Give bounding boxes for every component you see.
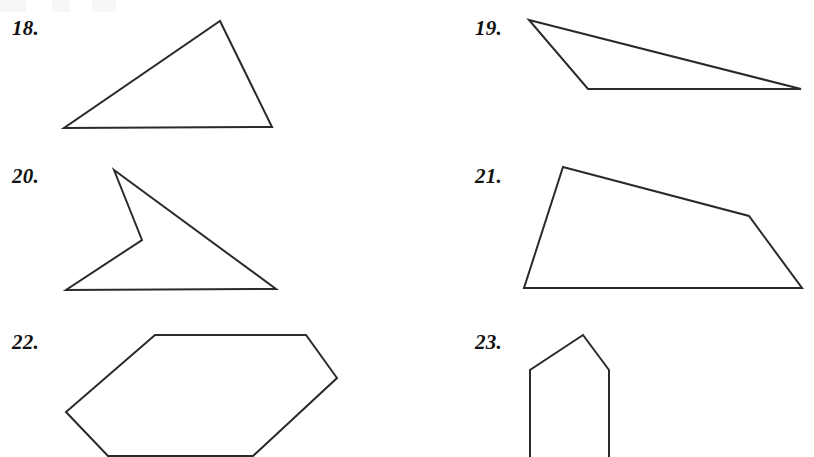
figure-layer bbox=[0, 0, 814, 457]
figure-23-house-pentagon bbox=[530, 335, 609, 457]
worksheet-page: 18. 19. 20. 21. 22. 23. bbox=[0, 0, 814, 457]
figure-21-pentagon bbox=[524, 167, 802, 288]
figure-18-triangle bbox=[64, 21, 272, 128]
figure-20-concave-quadrilateral bbox=[66, 170, 276, 290]
figure-19-thin-triangle bbox=[529, 20, 801, 89]
figure-22-hexagon bbox=[66, 335, 337, 456]
problem-label-22: 22. bbox=[12, 332, 39, 353]
problem-label-21: 21. bbox=[475, 166, 502, 187]
problem-label-23: 23. bbox=[475, 332, 502, 353]
problem-label-18: 18. bbox=[12, 18, 39, 39]
problem-label-19: 19. bbox=[475, 18, 502, 39]
scan-noise-artifact bbox=[0, 0, 814, 12]
problem-label-20: 20. bbox=[12, 166, 39, 187]
